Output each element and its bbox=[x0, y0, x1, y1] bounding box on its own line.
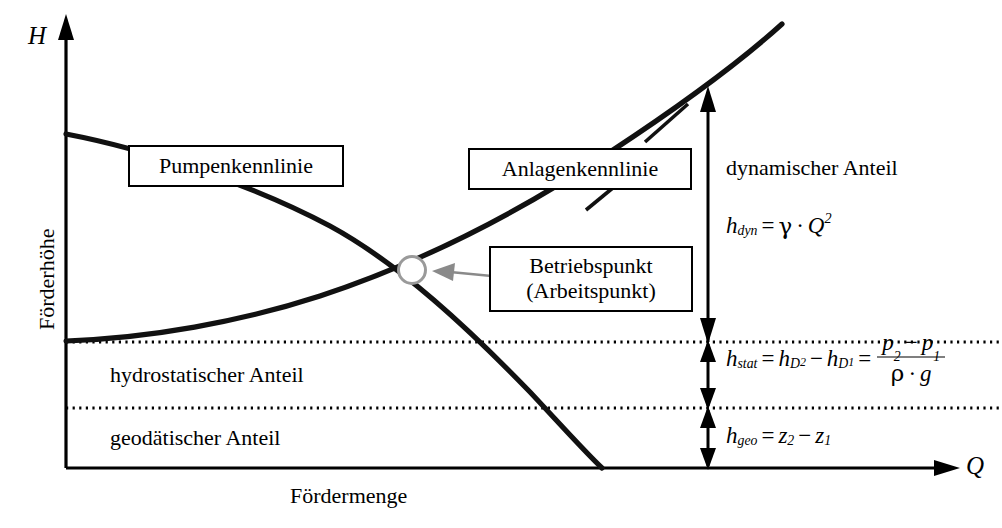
formula-h-geo-term2: z bbox=[815, 423, 824, 449]
formula-h-dyn-base: h bbox=[726, 213, 738, 239]
formula-h-geo-term1: z bbox=[778, 423, 787, 449]
region-label-dynamic: dynamischer Anteil bbox=[726, 155, 898, 181]
geodetic-share-measure-arrow bbox=[700, 406, 716, 470]
formula-h-geo-base: h bbox=[726, 423, 738, 449]
x-axis-symbol: Q bbox=[966, 452, 984, 480]
formula-h-dyn-equals: = bbox=[761, 213, 774, 239]
numerator-minus: − bbox=[905, 330, 918, 355]
p-subscript-1: 1 bbox=[933, 348, 940, 363]
y-axis-name: Förderhöhe bbox=[34, 229, 60, 330]
formula-h-stat-equals-2: = bbox=[858, 345, 871, 371]
callout-operating-point-line1: Betriebspunkt bbox=[529, 254, 652, 279]
callout-system-curve[interactable]: Anlagenkennlinie bbox=[468, 148, 692, 190]
region-label-geodetic: geodätischer Anteil bbox=[110, 425, 280, 451]
formula-h-stat-minus: − bbox=[810, 345, 823, 371]
formula-h-geo-minus: − bbox=[798, 423, 811, 449]
formula-h-stat-fraction: p2−p1 ρ·g bbox=[877, 330, 945, 387]
region-label-hydrostatic: hydrostatischer Anteil bbox=[110, 362, 304, 388]
callout-operating-point[interactable]: Betriebspunkt (Arbeitspunkt) bbox=[489, 246, 693, 312]
formula-h-dyn: hdyn = γ · Q2 bbox=[726, 213, 832, 239]
callout-pump-curve[interactable]: Pumpenkennlinie bbox=[128, 145, 344, 187]
y-axis bbox=[58, 14, 74, 468]
formula-h-dyn-q: Q bbox=[808, 213, 825, 239]
formula-h-stat: hstat = hD2 − hD1 = p2−p1 ρ·g bbox=[726, 330, 947, 387]
g-symbol: g bbox=[920, 361, 932, 386]
p-symbol-1: p bbox=[882, 330, 894, 355]
diagram-canvas: H Q Förderhöhe Fördermenge Pumpenkennlin… bbox=[0, 0, 1002, 528]
dynamic-share-measure-arrow bbox=[700, 86, 716, 344]
x-axis-name: Fördermenge bbox=[290, 483, 407, 509]
formula-h-dyn-dot: · bbox=[796, 213, 804, 239]
hydrostatic-share-measure-arrow bbox=[700, 340, 716, 410]
p-symbol-2: p bbox=[922, 330, 934, 355]
callout-pump-curve-label: Pumpenkennlinie bbox=[159, 154, 313, 179]
callout-operating-point-line2: (Arbeitspunkt) bbox=[526, 279, 656, 304]
x-axis bbox=[66, 460, 960, 476]
formula-h-stat-term2-base: h bbox=[827, 345, 839, 371]
callout-system-curve-label: Anlagenkennlinie bbox=[502, 157, 658, 182]
formula-h-stat-numerator: p2−p1 bbox=[877, 330, 945, 358]
formula-h-geo: hgeo = z2 − z1 bbox=[726, 423, 831, 449]
formula-h-geo-equals: = bbox=[761, 423, 774, 449]
formula-h-stat-equals-1: = bbox=[761, 345, 774, 371]
p-subscript-2: 2 bbox=[894, 348, 901, 363]
gamma-symbol: γ bbox=[778, 213, 792, 239]
formula-h-stat-base: h bbox=[726, 345, 738, 371]
formula-h-stat-term1-base: h bbox=[778, 345, 790, 371]
y-axis-symbol: H bbox=[28, 22, 46, 50]
operating-point-marker bbox=[399, 257, 426, 284]
denominator-dot: · bbox=[908, 361, 916, 386]
